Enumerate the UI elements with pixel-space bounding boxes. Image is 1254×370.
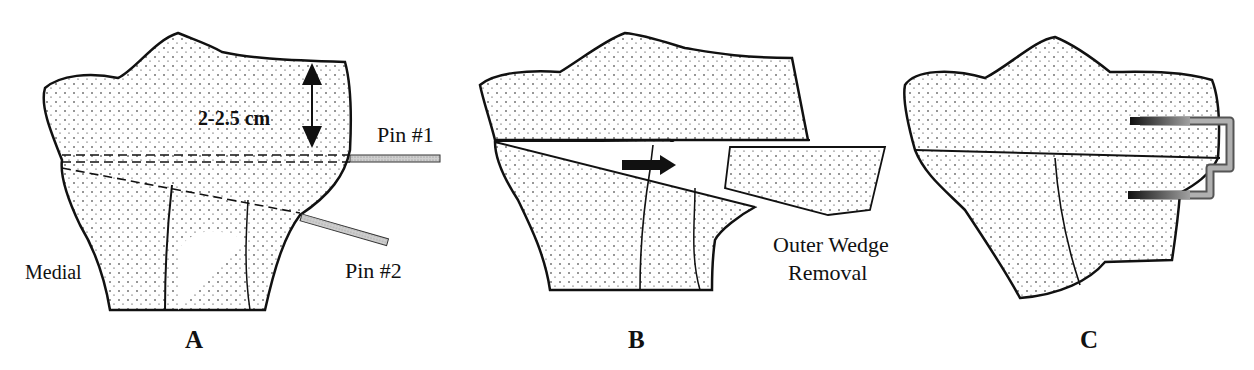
tibia-upper-b bbox=[480, 33, 808, 140]
panel-a: 2-2.5 cm Pin #1 Pin #2 Medial A bbox=[0, 0, 450, 370]
staple-prong-upper bbox=[1130, 117, 1190, 125]
tibia-drawing-b bbox=[450, 0, 890, 370]
pin-1 bbox=[350, 155, 440, 162]
panel-letter-c: C bbox=[1080, 327, 1098, 352]
tibia-drawing-a bbox=[0, 0, 450, 370]
wedge-label-line-1: Outer Wedge bbox=[773, 234, 889, 256]
measurement-label: 2-2.5 cm bbox=[198, 108, 270, 128]
medial-label: Medial bbox=[25, 262, 82, 282]
arrow-body bbox=[622, 160, 662, 170]
tibia-outline-c bbox=[904, 37, 1219, 298]
pin-2 bbox=[300, 214, 388, 246]
panel-letter-a: A bbox=[185, 327, 203, 352]
panel-letter-b: B bbox=[628, 327, 645, 352]
pin-1-label: Pin #1 bbox=[377, 124, 434, 146]
wedge-label-line-2: Removal bbox=[788, 262, 867, 284]
panel-b: Outer Wedge Removal B bbox=[450, 0, 890, 370]
pin-2-label: Pin #2 bbox=[345, 260, 402, 282]
staple-prong-lower bbox=[1128, 191, 1190, 199]
tibia-drawing-c bbox=[890, 0, 1254, 370]
panel-c: C bbox=[890, 0, 1254, 370]
